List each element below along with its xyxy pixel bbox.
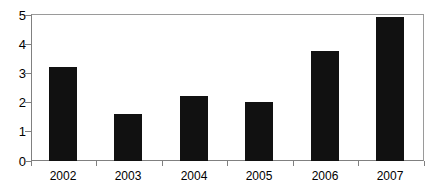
y-axis-labels: 5 4 3 2 1 0 bbox=[6, 0, 26, 195]
x-tick-mark-1 bbox=[96, 161, 97, 166]
x-tick-label-2007: 2007 bbox=[377, 170, 404, 182]
x-tick-label-2004: 2004 bbox=[181, 170, 208, 182]
y-tick-label-4: 4 bbox=[6, 38, 26, 51]
bars-layer bbox=[31, 14, 424, 161]
bar-2004 bbox=[180, 96, 208, 161]
bar-2005 bbox=[245, 102, 273, 161]
x-tick-label-2002: 2002 bbox=[50, 170, 77, 182]
bar-chart: 5 4 3 2 1 0 2002 2003 2004 2005 2006 200… bbox=[0, 0, 436, 195]
bar-2003 bbox=[114, 114, 142, 161]
x-tick-label-2005: 2005 bbox=[246, 170, 273, 182]
y-tick-label-2: 2 bbox=[6, 96, 26, 109]
x-tick-mark-0 bbox=[31, 161, 32, 166]
y-tick-label-5: 5 bbox=[6, 9, 26, 22]
x-tick-mark-6 bbox=[424, 161, 425, 166]
bar-2006 bbox=[311, 51, 339, 161]
y-tick-label-0: 0 bbox=[6, 155, 26, 168]
x-tick-label-2003: 2003 bbox=[115, 170, 142, 182]
x-tick-mark-4 bbox=[293, 161, 294, 166]
x-tick-mark-2 bbox=[162, 161, 163, 166]
bar-2007 bbox=[376, 17, 404, 161]
x-tick-mark-5 bbox=[358, 161, 359, 166]
x-tick-mark-3 bbox=[227, 161, 228, 166]
y-tick-label-1: 1 bbox=[6, 125, 26, 138]
y-tick-label-3: 3 bbox=[6, 67, 26, 80]
bar-2002 bbox=[49, 67, 77, 161]
x-tick-label-2006: 2006 bbox=[312, 170, 339, 182]
